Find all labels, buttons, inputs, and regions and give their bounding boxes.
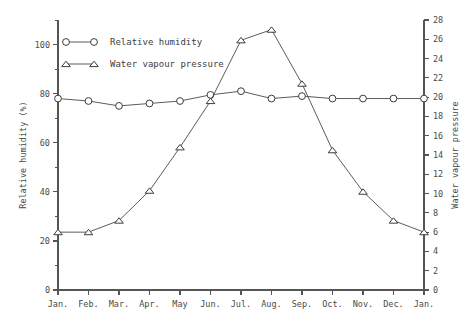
chart-legend: Relative humidityWater vapour pressure [62, 37, 224, 69]
axis-titles-group: Relative humidity (%)Water vapour pressu… [18, 101, 460, 208]
right-axis-tick-label: 20 [433, 92, 443, 102]
data-point-marker [421, 95, 428, 102]
x-axis-tick-label: Aug. [261, 299, 281, 309]
right-axis-tick-label: 2 [433, 266, 438, 276]
right-axis-tick-label: 28 [433, 15, 443, 25]
data-point-marker [329, 95, 336, 102]
legend-entry: Relative humidity [63, 37, 203, 47]
right-axis-tick-label: 24 [433, 54, 443, 64]
left-axis-tick-label: 80 [40, 89, 50, 99]
data-point-marker [206, 98, 215, 103]
legend-marker-circle [63, 39, 70, 46]
right-axis-tick-label: 16 [433, 131, 443, 141]
right-axis-tick-label: 26 [433, 34, 443, 44]
right-axis-tick-label: 18 [433, 111, 443, 121]
right-axis-tick-label: 22 [433, 73, 443, 83]
chart-container: 0204060801000246810121416182022242628Jan… [0, 0, 474, 325]
right-axis-tick-label: 12 [433, 169, 443, 179]
x-axis-tick-label: Jun. [200, 299, 220, 309]
left-axis-tick-label: 60 [40, 138, 50, 148]
data-point-marker [115, 218, 124, 223]
x-axis-tick-label: Nov. [353, 299, 373, 309]
x-axis-tick-label: Jan. [48, 299, 68, 309]
data-point-marker [146, 100, 153, 107]
right-axis-title: Water vapour pressure [450, 101, 460, 208]
data-point-marker [116, 103, 123, 110]
legend-entry: Water vapour pressure [62, 59, 224, 69]
legend-label: Relative humidity [110, 37, 203, 47]
right-axis-tick-label: 4 [433, 246, 438, 256]
x-axis-tick-label: Jul. [231, 299, 251, 309]
series-relative-humidity [55, 88, 428, 110]
data-point-marker [238, 88, 245, 95]
right-axis-tick-label: 14 [433, 150, 443, 160]
right-axis-tick-label: 10 [433, 189, 443, 199]
x-axis-tick-label: May [172, 299, 187, 309]
x-axis-tick-label: Feb. [78, 299, 98, 309]
left-axis-tick-label: 40 [40, 187, 50, 197]
data-point-marker [389, 218, 398, 223]
right-axis-tick-label: 8 [433, 208, 438, 218]
x-axis-tick-label: Oct. [322, 299, 342, 309]
data-point-marker [267, 27, 276, 32]
left-axis-tick-label: 100 [35, 40, 50, 50]
data-point-marker [237, 37, 246, 42]
data-point-marker [359, 189, 368, 194]
data-point-marker [85, 98, 92, 105]
x-axis-tick-label: Dec. [383, 299, 403, 309]
data-point-marker [145, 188, 154, 193]
left-axis-tick-label: 20 [40, 236, 50, 246]
data-point-marker [298, 81, 307, 86]
x-axis-tick-label: Apr. [139, 299, 159, 309]
right-axis-tick-label: 6 [433, 227, 438, 237]
legend-marker-circle [91, 39, 98, 46]
climate-line-chart: 0204060801000246810121416182022242628Jan… [0, 0, 474, 325]
legend-label: Water vapour pressure [110, 59, 224, 69]
data-point-marker [268, 95, 275, 102]
x-axis-tick-label: Jan. [414, 299, 434, 309]
tick-labels-group: 0204060801000246810121416182022242628Jan… [35, 15, 444, 309]
left-axis-title: Relative humidity (%) [18, 101, 28, 208]
data-point-marker [299, 93, 306, 100]
data-point-marker [176, 144, 185, 149]
left-axis-tick-label: 0 [45, 285, 50, 295]
x-axis-tick-label: Sep. [292, 299, 312, 309]
x-axis-tick-label: Mar. [109, 299, 129, 309]
data-point-marker [360, 95, 367, 102]
data-point-marker [177, 98, 184, 105]
data-point-marker [55, 95, 62, 102]
data-point-marker [390, 95, 397, 102]
right-axis-tick-label: 0 [433, 285, 438, 295]
data-point-marker [328, 147, 337, 152]
